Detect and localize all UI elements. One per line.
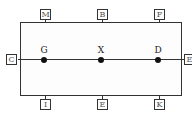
port-left-c[interactable]: C bbox=[6, 54, 17, 65]
port-top-f[interactable]: F bbox=[154, 9, 165, 20]
port-right-e[interactable]: E bbox=[184, 54, 192, 65]
port-top-b[interactable]: B bbox=[97, 9, 108, 20]
node-label-x: X bbox=[94, 46, 108, 55]
node-label-d: D bbox=[151, 46, 165, 55]
port-bottom-i[interactable]: I bbox=[40, 99, 51, 110]
node-label-g: G bbox=[37, 46, 51, 55]
node-g[interactable] bbox=[41, 57, 47, 63]
port-bottom-k[interactable]: K bbox=[154, 99, 165, 110]
port-top-m[interactable]: M bbox=[40, 9, 51, 20]
port-bottom-e[interactable]: E bbox=[97, 99, 108, 110]
node-x[interactable] bbox=[98, 57, 104, 63]
node-d[interactable] bbox=[155, 57, 161, 63]
